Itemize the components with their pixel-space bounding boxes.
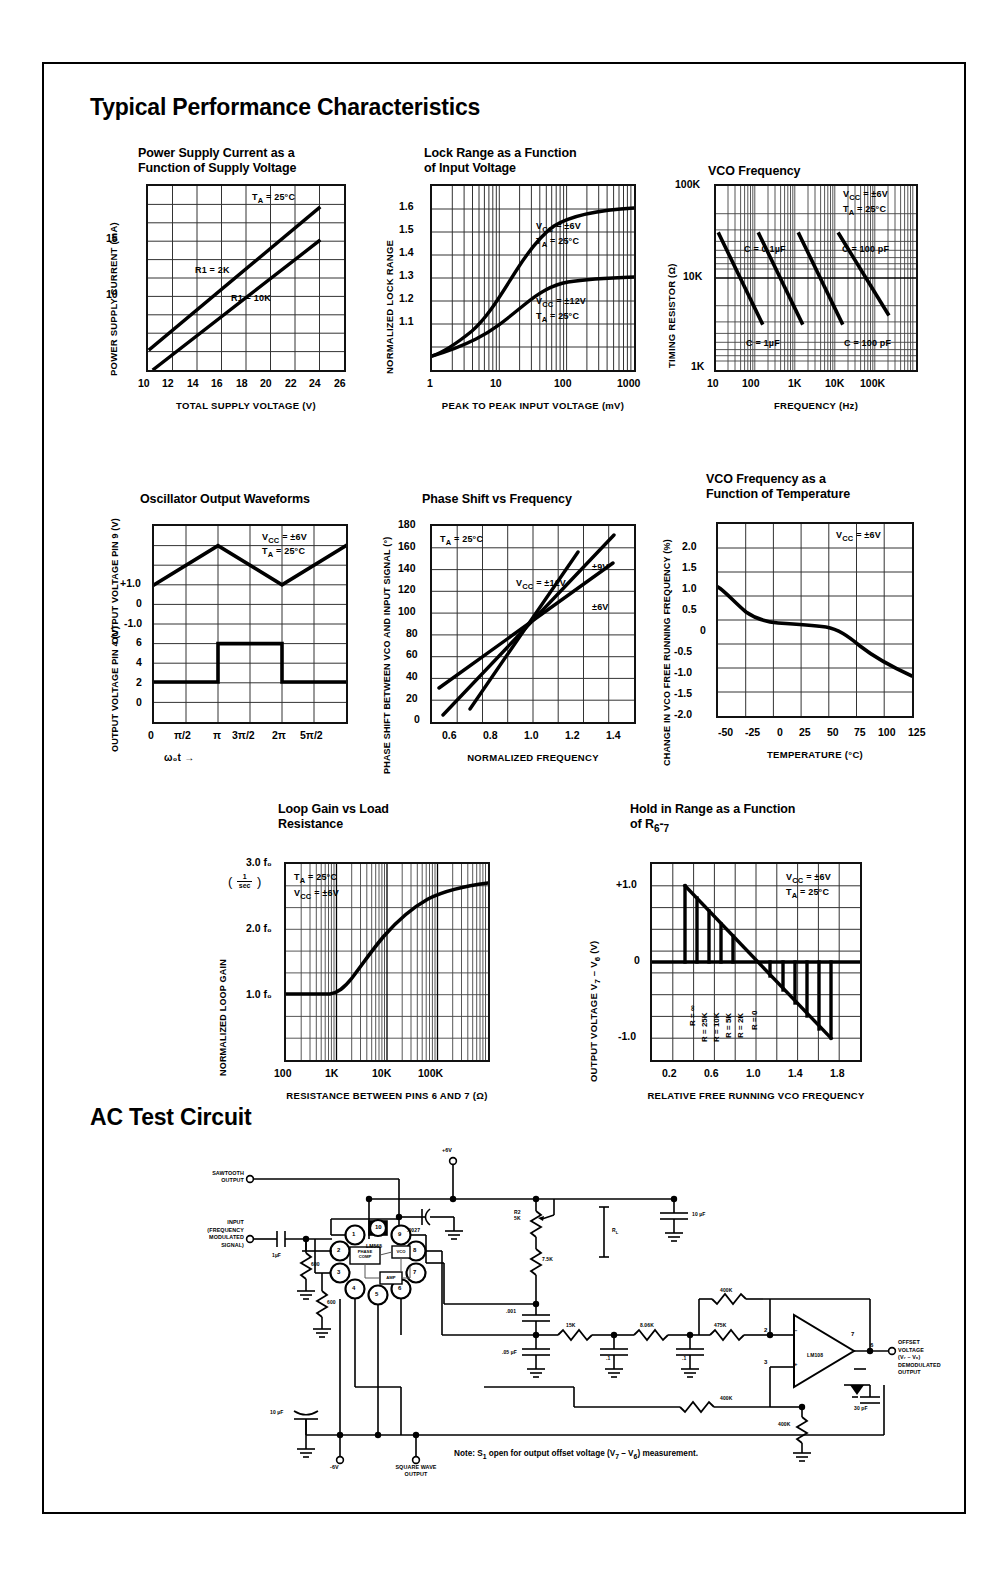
ytick-minus1: -1.0: [124, 617, 142, 629]
chart-vco-temperature: VCO Frequency as a Function of Temperatu…: [656, 464, 936, 784]
ytick-zero-bottom: 0: [136, 696, 142, 708]
ytick-1-1: 1.1: [399, 315, 414, 327]
x-axis-label: RELATIVE FREE RUNNING VCO FREQUENCY: [626, 1090, 886, 1101]
chart-title-line2: Resistance: [278, 817, 343, 832]
ytick-1-5: 1.5: [682, 561, 697, 573]
x-axis-label: PEAK TO PEAK INPUT VOLTAGE (mV): [420, 400, 646, 411]
chart-title-line1: Loop Gain vs Load: [278, 802, 389, 817]
ytick-20: 20: [406, 692, 418, 704]
x-axis-ticks: -50 -25 0 25 50 75 100 125: [716, 726, 914, 740]
pin-8: 8: [413, 1247, 416, 1253]
ytick-100: 100: [398, 605, 416, 617]
label-c-timing: .0027: [407, 1227, 420, 1233]
ytick-0: 0: [414, 713, 420, 725]
x-axis-label: ω₀t →: [164, 752, 195, 763]
annotation-c-0p1uf: C = 0.1µF: [744, 244, 786, 254]
label-sawtooth-output: SAWTOOTHOUTPUT: [192, 1170, 244, 1184]
ytick-80: 80: [406, 627, 418, 639]
label-c-input: 1µF: [272, 1252, 281, 1258]
label-rl: RL: [612, 1227, 618, 1235]
label-square-wave-output: SQUARE WAVEOUTPUT: [386, 1464, 446, 1478]
x-axis-label: FREQUENCY (Hz): [714, 400, 918, 411]
label-r-400k-fb: 400K: [720, 1287, 732, 1293]
x-axis-label: TEMPERATURE (°C): [716, 749, 914, 760]
ytick-neg1-0: -1.0: [674, 666, 692, 678]
pin-5: 5: [375, 1291, 378, 1297]
ytick-neg1-5: -1.5: [674, 687, 692, 699]
annotation-ta: TA = 25°C: [786, 887, 829, 900]
annotation-vcc-12v: VCC = ±12V: [536, 296, 586, 309]
opamp-pin-2: 2: [764, 1327, 767, 1333]
ytick-2: 2: [136, 676, 142, 688]
chart-title-line1: Lock Range as a Function: [424, 146, 577, 161]
block-phase-comp: PHASECOMP: [352, 1249, 378, 1259]
ytick-1-6: 1.6: [399, 200, 414, 212]
label-c-05uf: .05 µF: [502, 1349, 517, 1355]
plot-svg: [148, 186, 344, 370]
label-r-pin3: 600: [327, 1299, 336, 1305]
label-c-001: .001: [506, 1308, 516, 1314]
circuit-svg: [154, 1139, 914, 1469]
x-axis-ticks: 0 π/2 π 3π/2 2π 5π/2: [152, 729, 348, 744]
label-c-10uf-bot: 10 µF: [270, 1409, 283, 1415]
label-c-p1b: .1: [682, 1355, 686, 1361]
chart-title-line2: of R6-7: [630, 817, 669, 836]
pin-4: 4: [352, 1285, 355, 1291]
label-c-10uf-top: 10 µF: [692, 1211, 705, 1217]
ytick-10k: 10K: [683, 270, 702, 282]
ytick-neg0-5: -0.5: [674, 645, 692, 657]
y-axis-label-fraction: ( 1 sec ): [228, 872, 261, 890]
opamp-pin-3: 3: [764, 1359, 767, 1365]
label-r-400k-gnd: 400K: [778, 1421, 790, 1427]
plot-svg: [432, 186, 634, 370]
plot-area: [146, 184, 346, 372]
ytick-plus1: +1.0: [616, 878, 637, 890]
annotation-temperature: TA = 25°C: [252, 192, 295, 205]
plot-area: [430, 184, 636, 372]
annotation-ta-25-b: TA = 25°C: [536, 311, 579, 324]
label-supply-pos: +6V: [442, 1147, 452, 1153]
opamp-pin-6: 6: [870, 1342, 873, 1348]
chart-loop-gain: Loop Gain vs Load Resistance NORMALIZED …: [204, 794, 504, 1094]
ytick-140: 140: [398, 562, 416, 574]
x-axis-ticks: 10 100 1K 10K 100K: [714, 377, 918, 391]
ac-test-circuit-diagram: +6V SAWTOOTHOUTPUT INPUT(FREQUENCYMODULA…: [154, 1139, 914, 1469]
plot-svg: [154, 526, 346, 722]
annotation-ta: TA = 25°C: [843, 204, 886, 217]
annotation-vcc: VCC = ±6V: [836, 530, 881, 543]
x-axis-ticks: 0.2 0.6 1.0 1.4 1.8: [650, 1067, 862, 1081]
plot-area: [430, 524, 636, 724]
chart-lock-range: Lock Range as a Function of Input Voltag…: [374, 146, 654, 446]
annotation-ta: TA = 25°C: [440, 534, 483, 547]
opamp-pin-7: 7: [851, 1331, 854, 1337]
x-axis-label: TOTAL SUPPLY VOLTAGE (V): [146, 400, 346, 411]
label-c-30pf: 30 pF: [854, 1405, 868, 1411]
ytick-plus1: +1.0: [120, 577, 141, 589]
pin-6: 6: [398, 1285, 401, 1291]
label-r-475k: 475K: [714, 1322, 726, 1328]
pin-3: 3: [337, 1269, 340, 1275]
label-r-input: 600: [311, 1261, 320, 1267]
label-ic-lm108: LM108: [807, 1352, 823, 1358]
ytick-160: 160: [398, 540, 416, 552]
plot-area: [152, 524, 348, 724]
annotation-r1-10k: R1 = 10K: [231, 293, 271, 303]
pin-1: 1: [352, 1231, 355, 1237]
x-axis-ticks: 10 12 14 16 18 20 22 24 26: [146, 377, 346, 391]
x-axis-label: NORMALIZED FREQUENCY: [430, 752, 636, 763]
label-r-75k: 7.5K: [542, 1256, 553, 1262]
opamp-minus: −: [794, 1328, 798, 1334]
label-r-806k: 8.06K: [640, 1322, 654, 1328]
ytick-zero-top: 0: [136, 597, 142, 609]
pin-7: 7: [413, 1269, 416, 1275]
x-axis-ticks: 1 10 100 1000: [430, 377, 636, 391]
ytick-1f0: 1.0 f₀: [246, 988, 272, 1000]
ytick-1-5: 1.5: [399, 223, 414, 235]
ytick-1k: 1K: [691, 360, 704, 372]
annotation-9v: ±9V: [592, 562, 609, 572]
pin-9: 9: [398, 1231, 401, 1237]
annotation-c-100pf-top: C = 100 pF: [842, 244, 889, 254]
label-input: INPUT(FREQUENCYMODULATEDSIGNAL): [174, 1219, 244, 1249]
ytick-10: 10: [106, 288, 118, 300]
pin-2: 2: [337, 1247, 340, 1253]
